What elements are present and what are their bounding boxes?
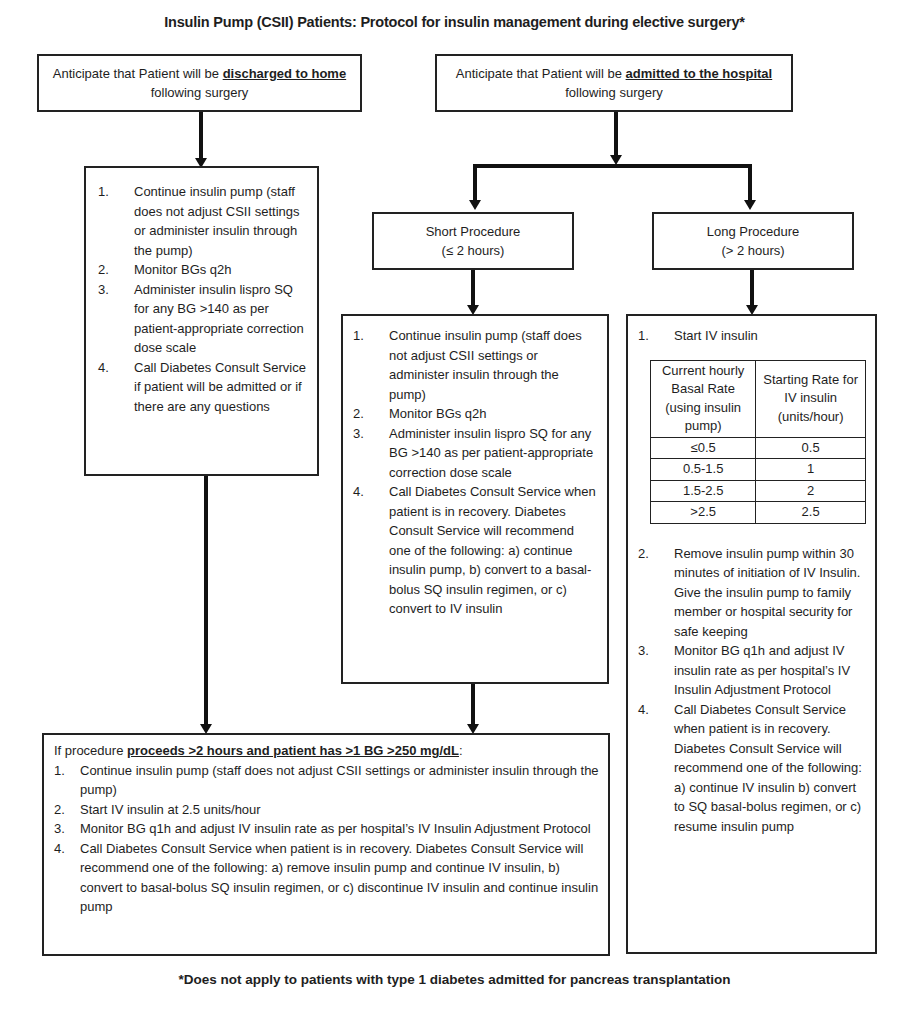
admitted-hospital-box: Anticipate that Patient will be admitted…	[435, 54, 793, 112]
short-procedure-sublabel: (≤ 2 hours)	[442, 241, 505, 261]
list-item: 1.Continue insulin pump (staff does not …	[98, 182, 307, 260]
short-steps-list: 1.Continue insulin pump (staff does not …	[353, 326, 599, 619]
long-procedure-box: Long Procedure (> 2 hours)	[652, 212, 854, 270]
long-step1-list: 1.Start IV insulin	[638, 326, 867, 346]
list-item: 4.Call Diabetes Consult Service when pat…	[54, 839, 600, 917]
list-item: 4.Call Diabetes Consult Service when pat…	[353, 482, 599, 619]
prolonged-procedure-box: If procedure proceeds >2 hours and patie…	[42, 733, 610, 956]
list-item: 3.Monitor BG q1h and adjust IV insulin r…	[638, 641, 867, 700]
long-procedure-sublabel: (> 2 hours)	[721, 241, 784, 261]
connector-line	[471, 270, 475, 308]
discharged-home-box: Anticipate that Patient will be discharg…	[37, 54, 362, 112]
table-row: 1.5-2.5 2	[651, 480, 866, 502]
long-procedure-label: Long Procedure	[707, 222, 800, 242]
prolonged-emphasis: proceeds >2 hours and patient has >1 BG …	[127, 743, 459, 758]
long-procedure-steps-box: 1.Start IV insulin Current hourly Basal …	[626, 314, 877, 954]
prolonged-condition: If procedure proceeds >2 hours and patie…	[54, 741, 600, 761]
list-item: 2.Start IV insulin at 2.5 units/hour	[54, 800, 600, 820]
table-header-row: Current hourly Basal Rate (using insulin…	[651, 360, 866, 437]
page-title: Insulin Pump (CSII) Patients: Protocol f…	[0, 14, 909, 30]
list-item: 4.Call Diabetes Consult Service when pat…	[638, 700, 867, 837]
short-procedure-steps-box: 1.Continue insulin pump (staff does not …	[341, 314, 609, 684]
list-item: 2.Remove insulin pump within 30 minutes …	[638, 544, 867, 642]
list-item: 1.Start IV insulin	[638, 326, 867, 346]
connector-line	[614, 112, 618, 160]
list-item: 2.Monitor BGs q2h	[353, 404, 599, 424]
short-procedure-label: Short Procedure	[426, 222, 521, 242]
list-item: 3.Administer insulin lispro SQ for any B…	[98, 280, 307, 358]
arrow-down-icon	[469, 200, 481, 210]
arrow-down-icon	[744, 200, 756, 210]
column-header: Current hourly Basal Rate (using insulin…	[651, 360, 756, 437]
prolonged-steps-list: 1.Continue insulin pump (staff does not …	[54, 761, 600, 917]
short-procedure-box: Short Procedure (≤ 2 hours)	[372, 212, 574, 270]
connector-line	[473, 164, 477, 200]
admitted-emphasis: admitted to the hospital	[626, 66, 773, 81]
list-item: 1.Continue insulin pump (staff does not …	[54, 761, 600, 800]
basal-rate-table: Current hourly Basal Rate (using insulin…	[650, 360, 866, 524]
table-row: ≤0.5 0.5	[651, 437, 866, 459]
discharged-home-text: Anticipate that Patient will be discharg…	[45, 64, 354, 103]
list-item: 3.Monitor BG q1h and adjust IV insulin r…	[54, 819, 600, 839]
admitted-hospital-text: Anticipate that Patient will be admitted…	[443, 64, 785, 103]
connector-line	[750, 270, 754, 308]
connector-line	[473, 164, 752, 168]
table-row: >2.5 2.5	[651, 502, 866, 524]
discharged-emphasis: discharged to home	[223, 66, 347, 81]
footnote: *Does not apply to patients with type 1 …	[0, 972, 909, 987]
table-row: 0.5-1.5 1	[651, 459, 866, 481]
list-item: 4.Call Diabetes Consult Service if patie…	[98, 358, 307, 417]
connector-line	[748, 164, 752, 200]
list-item: 2.Monitor BGs q2h	[98, 260, 307, 280]
connector-line	[199, 112, 203, 160]
connector-line	[204, 476, 208, 728]
column-header: Starting Rate for IV insulin (units/hour…	[756, 360, 866, 437]
long-steps-list: 2.Remove insulin pump within 30 minutes …	[638, 544, 867, 837]
connector-line	[471, 684, 475, 728]
discharged-steps-list: 1.Continue insulin pump (staff does not …	[98, 182, 307, 416]
list-item: 1.Continue insulin pump (staff does not …	[353, 326, 599, 404]
discharged-steps-box: 1.Continue insulin pump (staff does not …	[84, 166, 319, 476]
list-item: 3.Administer insulin lispro SQ for any B…	[353, 424, 599, 483]
